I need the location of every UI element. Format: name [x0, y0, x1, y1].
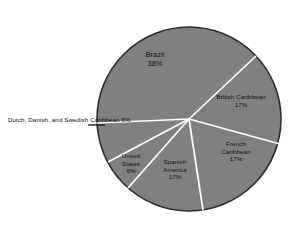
slice-label-dutch-danish-swedish-caribbean-line2: Swedish Caribbean: [64, 116, 119, 123]
slice-label-dutch-danish-swedish-caribbean: Dutch, Danish, and Swedish Caribbean 6%: [8, 116, 92, 124]
slice-label-dutch-danish-swedish-caribbean-line1: Dutch, Danish, and: [8, 116, 62, 123]
pie-chart-graphic: [0, 0, 298, 230]
slice-label-dutch-danish-swedish-caribbean-percent: 6%: [121, 116, 130, 123]
pie-chart: Brazil 38% British Caribbean 17% French …: [0, 0, 298, 230]
